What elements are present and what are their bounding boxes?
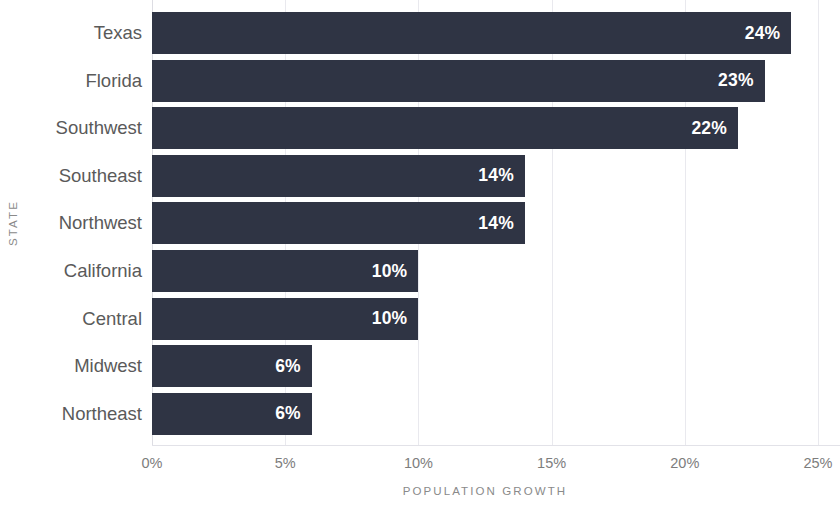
plot-area: 24%23%22%14%14%10%10%6%6% bbox=[152, 0, 818, 446]
bar-row[interactable]: 23% bbox=[152, 60, 765, 102]
bar[interactable]: 10% bbox=[152, 250, 418, 292]
y-tick-label: Central bbox=[20, 298, 142, 340]
bar[interactable]: 10% bbox=[152, 298, 418, 340]
x-tick-label: 20% bbox=[670, 455, 699, 471]
bar-value-label: 23% bbox=[718, 70, 765, 91]
y-tick-label: Southwest bbox=[20, 107, 142, 149]
y-tick-label-group: TexasFloridaSouthwestSoutheastNorthwestC… bbox=[20, 12, 142, 438]
gridline bbox=[818, 0, 819, 446]
bar-value-label: 10% bbox=[372, 308, 419, 329]
bar-row[interactable]: 22% bbox=[152, 107, 738, 149]
bar-value-label: 6% bbox=[275, 356, 312, 377]
x-tick-label: 5% bbox=[275, 455, 296, 471]
bar[interactable]: 23% bbox=[152, 60, 765, 102]
bar-row[interactable]: 10% bbox=[152, 298, 418, 340]
x-tick-label: 25% bbox=[803, 455, 832, 471]
bar-row[interactable]: 14% bbox=[152, 155, 525, 197]
y-tick-label: Northeast bbox=[20, 393, 142, 435]
y-tick-label: Texas bbox=[20, 12, 142, 54]
bar[interactable]: 6% bbox=[152, 393, 312, 435]
x-tick-label: 10% bbox=[404, 455, 433, 471]
y-tick-label: Florida bbox=[20, 60, 142, 102]
x-tick-label: 15% bbox=[537, 455, 566, 471]
x-axis-baseline bbox=[152, 445, 840, 446]
bar-value-label: 14% bbox=[478, 165, 525, 186]
bar[interactable]: 6% bbox=[152, 345, 312, 387]
bar-value-label: 10% bbox=[372, 261, 419, 282]
bar-value-label: 6% bbox=[275, 403, 312, 424]
bar-value-label: 14% bbox=[478, 213, 525, 234]
x-axis-title: POPULATION GROWTH bbox=[152, 485, 818, 497]
x-tick-label: 0% bbox=[142, 455, 163, 471]
bar[interactable]: 24% bbox=[152, 12, 791, 54]
y-axis-title-text: STATE bbox=[7, 200, 19, 246]
bar[interactable]: 14% bbox=[152, 202, 525, 244]
bar-row[interactable]: 6% bbox=[152, 345, 312, 387]
x-tick-label-group: 0%5%10%15%20%25% bbox=[0, 455, 838, 479]
y-tick-label: Northwest bbox=[20, 202, 142, 244]
bar-value-label: 24% bbox=[745, 23, 792, 44]
bar[interactable]: 22% bbox=[152, 107, 738, 149]
y-tick-label: Southeast bbox=[20, 155, 142, 197]
bar-row[interactable]: 24% bbox=[152, 12, 791, 54]
bar-row[interactable]: 14% bbox=[152, 202, 525, 244]
bar-row[interactable]: 10% bbox=[152, 250, 418, 292]
y-tick-label: California bbox=[20, 250, 142, 292]
bar-value-label: 22% bbox=[691, 118, 738, 139]
y-tick-label: Midwest bbox=[20, 345, 142, 387]
bar[interactable]: 14% bbox=[152, 155, 525, 197]
bar-row[interactable]: 6% bbox=[152, 393, 312, 435]
